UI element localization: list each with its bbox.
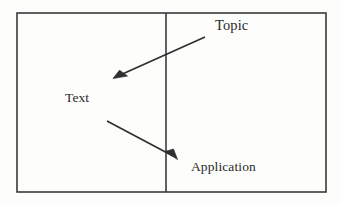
arrow-text-to-application-shaft <box>107 121 173 156</box>
outer-rectangle <box>17 13 326 192</box>
label-application: Application <box>191 160 256 174</box>
arrow-topic-to-text-head <box>113 70 128 78</box>
arrow-topic-to-text-shaft <box>118 37 205 76</box>
arrow-text-to-application-head <box>165 149 178 160</box>
arrow-text-to-application <box>107 121 178 160</box>
label-text: Text <box>65 91 89 105</box>
arrow-topic-to-text <box>113 37 205 79</box>
label-topic: Topic <box>215 18 248 33</box>
diagram-graphics <box>0 0 341 205</box>
diagram-canvas: Topic Text Application <box>0 0 341 205</box>
